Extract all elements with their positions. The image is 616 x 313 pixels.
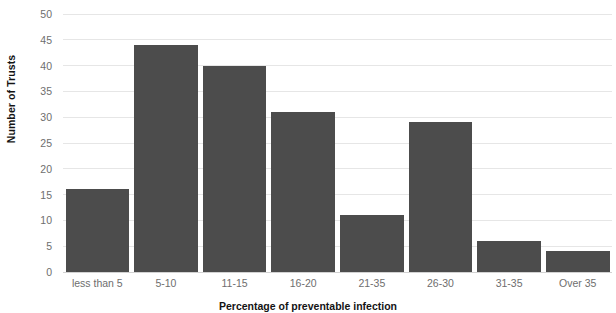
x-tick-label: 11-15 <box>200 276 269 290</box>
plot-area <box>63 14 612 272</box>
bar <box>546 251 610 272</box>
x-tick-label: 31-35 <box>475 276 544 290</box>
bar <box>409 122 473 272</box>
bar <box>66 189 130 272</box>
y-tick-label: 15 <box>24 190 52 200</box>
x-tick-label: 5-10 <box>132 276 201 290</box>
x-tick-label: Over 35 <box>543 276 612 290</box>
bar <box>134 45 198 272</box>
x-tick-label: 26-30 <box>406 276 475 290</box>
x-axis-title: Percentage of preventable infection <box>0 299 616 313</box>
bar <box>340 215 404 272</box>
bar <box>271 112 335 272</box>
x-tick-label: 16-20 <box>269 276 338 290</box>
y-tick-label: 25 <box>24 138 52 148</box>
y-tick-label: 45 <box>24 35 52 45</box>
y-tick-label: 30 <box>24 112 52 122</box>
bar <box>477 241 541 272</box>
x-tick-label: 21-35 <box>338 276 407 290</box>
y-axis-tick-labels: 05101520253035404550 <box>24 0 52 308</box>
y-tick-label: 50 <box>24 9 52 19</box>
x-axis-tick-labels: less than 55-1011-1516-2021-3526-3031-35… <box>63 276 612 292</box>
y-tick-label: 35 <box>24 86 52 96</box>
y-tick-label: 10 <box>24 215 52 225</box>
y-tick-label: 40 <box>24 61 52 71</box>
bar <box>203 66 267 272</box>
y-tick-label: 20 <box>24 164 52 174</box>
bars-group <box>63 14 612 272</box>
x-tick-label: less than 5 <box>63 276 132 290</box>
y-tick-label: 5 <box>24 241 52 251</box>
y-axis-title: Number of Trusts <box>4 44 18 154</box>
y-tick-label: 0 <box>24 267 52 277</box>
